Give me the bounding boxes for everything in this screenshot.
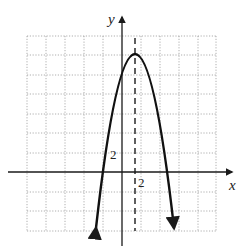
x-tick-label: 2 (138, 176, 145, 189)
y-tick-label: 2 (110, 148, 117, 161)
x-axis-label: x (229, 178, 236, 193)
y-axis-label: y (108, 12, 115, 27)
graph-canvas (0, 0, 240, 247)
